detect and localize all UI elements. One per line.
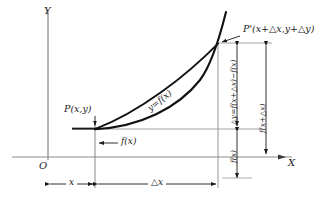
delta-x-dimension-label: △x	[148, 178, 166, 187]
function-curve	[95, 12, 226, 129]
f-x-vertical-label: f(x)	[230, 150, 238, 163]
y-axis-label: Y	[44, 6, 51, 16]
delta-y-label: △y=f(x+△x)−f(x)	[230, 60, 238, 125]
f-x-horizontal-label: f(x)	[121, 137, 136, 146]
function-curve-group	[95, 12, 226, 129]
pprime-callout-arrow	[222, 36, 240, 42]
secant-line	[95, 44, 218, 130]
x-axis-label: X	[288, 158, 295, 168]
origin-label: O	[39, 161, 47, 171]
point-p-prime-label: P'(x+△x,y+△y)	[243, 24, 314, 34]
x-axis-arrowhead	[278, 154, 286, 159]
helper-lines	[72, 43, 272, 188]
calculus-diagram: Y X O P(x,y) P'(x+△x,y+△y) y=f(x) f(x) △…	[0, 0, 335, 200]
x-dimension-label: x	[66, 178, 77, 187]
point-p-label: P(x,y)	[64, 104, 92, 114]
f-x-plus-dx-label: f(x+△x)	[259, 103, 267, 133]
